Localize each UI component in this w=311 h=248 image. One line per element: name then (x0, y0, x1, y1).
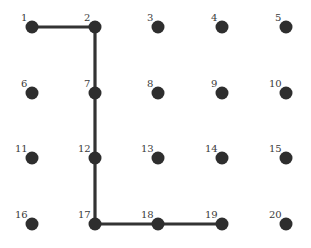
node-label-16: 16 (15, 209, 28, 220)
grid-nodes (26, 21, 293, 231)
node-8 (152, 87, 165, 100)
path-edges (32, 27, 222, 224)
diagram-svg: 1234567891011121314151617181920 (0, 0, 311, 248)
node-label-18: 18 (141, 209, 154, 220)
node-labels: 1234567891011121314151617181920 (15, 12, 282, 220)
node-label-1: 1 (21, 12, 27, 23)
node-label-9: 9 (211, 78, 217, 89)
node-label-20: 20 (269, 209, 282, 220)
node-3 (152, 21, 165, 34)
node-1 (26, 21, 39, 34)
node-label-19: 19 (205, 209, 218, 220)
node-label-6: 6 (21, 78, 27, 89)
grid-path-diagram: 1234567891011121314151617181920 (0, 0, 311, 248)
node-2 (89, 21, 102, 34)
node-label-17: 17 (78, 209, 91, 220)
node-label-8: 8 (147, 78, 153, 89)
node-9 (216, 87, 229, 100)
node-label-5: 5 (275, 12, 281, 23)
node-label-13: 13 (141, 143, 154, 154)
node-label-12: 12 (78, 143, 91, 154)
node-5 (280, 21, 293, 34)
node-6 (26, 87, 39, 100)
node-label-7: 7 (84, 78, 90, 89)
node-label-2: 2 (84, 12, 90, 23)
node-label-11: 11 (15, 143, 28, 154)
node-label-14: 14 (205, 143, 218, 154)
node-4 (216, 21, 229, 34)
node-7 (89, 87, 102, 100)
node-label-4: 4 (211, 12, 217, 23)
node-label-3: 3 (147, 12, 153, 23)
node-label-15: 15 (269, 143, 282, 154)
node-label-10: 10 (269, 78, 282, 89)
